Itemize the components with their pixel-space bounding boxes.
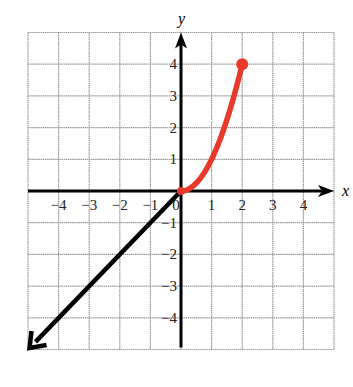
- x-tick-label: −4: [51, 197, 67, 213]
- x-tick-label: −2: [112, 197, 128, 213]
- y-tick-label: −3: [161, 278, 177, 294]
- y-tick-label: 4: [170, 56, 178, 72]
- origin-point: [177, 187, 185, 195]
- y-tick-label: −4: [161, 310, 177, 326]
- y-tick-label: 3: [170, 88, 178, 104]
- x-tick-label: −3: [81, 197, 97, 213]
- y-tick-label: −2: [161, 246, 177, 262]
- x-tick-label: 4: [300, 197, 308, 213]
- y-tick-label: −1: [161, 215, 177, 231]
- x-tick-label: 3: [269, 197, 277, 213]
- y-tick-label: 2: [170, 120, 178, 136]
- x-tick-label: −1: [142, 197, 158, 213]
- closed-dot-endpoint: [236, 58, 248, 70]
- piecewise-graph: xy −4−3−2−1012344321−1−2−3−4: [0, 0, 353, 387]
- x-tick-label: 2: [238, 197, 246, 213]
- x-axis-label: x: [341, 182, 349, 199]
- line-y-equals-x: [36, 191, 181, 342]
- x-tick-label: 1: [208, 197, 216, 213]
- y-axis-label: y: [176, 10, 186, 28]
- y-tick-label: 1: [170, 151, 178, 167]
